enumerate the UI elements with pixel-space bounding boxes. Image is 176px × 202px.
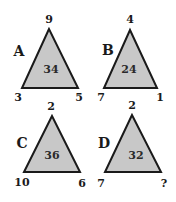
- triangle-d-left-number: 7: [97, 178, 105, 189]
- triangle-c-letter: C: [16, 136, 27, 150]
- triangle-c-center-number: 36: [44, 150, 59, 161]
- triangle-a-top-number: 9: [45, 14, 53, 25]
- triangle-c-top-number: 2: [47, 101, 55, 112]
- triangle-b-left-number: 7: [97, 92, 105, 103]
- triangle-d-center-number: 32: [128, 150, 143, 161]
- triangle-a-left-number: 3: [14, 92, 22, 103]
- triangle-d-top-number: 2: [128, 100, 136, 111]
- triangle-a-letter: A: [14, 44, 25, 58]
- triangle-b-letter: B: [102, 43, 114, 57]
- triangle-a-shape: [22, 29, 78, 88]
- triangle-diagram: [0, 0, 176, 202]
- triangle-b-top-number: 4: [126, 14, 134, 25]
- triangle-b-center-number: 24: [121, 64, 136, 75]
- triangle-b-shape: [104, 30, 157, 88]
- triangle-d-missing-number: ?: [161, 178, 167, 189]
- triangle-a-center-number: 34: [43, 64, 58, 75]
- triangle-a-right-number: 5: [75, 92, 83, 103]
- triangle-d-shape: [105, 115, 161, 172]
- triangle-c-right-number: 6: [78, 178, 86, 189]
- triangle-b-right-number: 1: [156, 92, 164, 103]
- triangle-d-letter: D: [98, 136, 110, 150]
- triangle-c-left-number: 10: [14, 177, 29, 188]
- triangle-c-shape: [24, 116, 80, 172]
